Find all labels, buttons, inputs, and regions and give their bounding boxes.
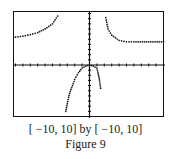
- graph-point: [57, 15, 59, 17]
- graph-point: [154, 41, 156, 43]
- graph-point: [41, 30, 43, 32]
- graph-point: [89, 64, 91, 66]
- graph-point: [96, 67, 98, 69]
- graph-point: [121, 40, 123, 42]
- graph-point: [71, 87, 73, 89]
- graph-point: [87, 65, 89, 67]
- graph-point: [27, 34, 29, 36]
- graph-point: [163, 41, 165, 43]
- graph-point: [79, 70, 81, 72]
- graph-point: [15, 36, 17, 38]
- graph-point: [118, 39, 120, 41]
- graph-point: [56, 17, 58, 19]
- graph-point: [66, 107, 68, 109]
- graph-point: [72, 85, 74, 87]
- graph-point: [66, 105, 68, 107]
- graph-point: [34, 32, 36, 34]
- graph-point: [100, 87, 102, 89]
- graph-point: [98, 75, 100, 77]
- graph-point: [67, 101, 69, 103]
- graph-point: [115, 37, 117, 39]
- graph-point: [107, 28, 109, 30]
- graph-point: [94, 66, 96, 68]
- graph-point: [50, 24, 52, 26]
- graph-point: [65, 109, 67, 111]
- graph-point: [53, 21, 55, 23]
- graph-point: [75, 76, 77, 78]
- figure-label: Figure 9: [0, 137, 171, 151]
- graph-point: [20, 36, 22, 38]
- graph-point: [54, 19, 56, 21]
- graph-point: [91, 65, 93, 67]
- graph-point: [22, 35, 24, 37]
- graph-point: [66, 103, 68, 105]
- graph-point: [25, 35, 27, 37]
- graph-point: [81, 67, 83, 69]
- graph-point: [144, 41, 146, 43]
- graph-point: [42, 29, 44, 31]
- graph-point: [68, 95, 70, 97]
- graph-point: [72, 83, 74, 85]
- graph-point: [98, 77, 100, 79]
- graph-point: [83, 66, 85, 68]
- graph-point: [128, 41, 130, 43]
- graph-point: [37, 32, 39, 34]
- graph-point: [99, 79, 101, 81]
- graph-point: [99, 81, 101, 83]
- graph-point: [113, 36, 115, 38]
- graph-point: [106, 24, 108, 26]
- graph-point: [85, 65, 87, 67]
- graph-point: [44, 28, 46, 30]
- graph-point: [148, 41, 150, 43]
- graph-point: [106, 21, 108, 23]
- graph-point: [39, 31, 41, 33]
- graph-point: [65, 111, 67, 113]
- graph-point: [146, 41, 148, 43]
- graph-point: [68, 97, 70, 99]
- graph-point: [73, 81, 75, 83]
- graph-point: [69, 91, 71, 93]
- graph-point: [99, 83, 101, 85]
- graph-point: [108, 30, 110, 32]
- graph-point: [133, 41, 135, 43]
- graph-point: [76, 74, 78, 76]
- graph-point: [126, 41, 128, 43]
- graph-point: [46, 27, 48, 29]
- graph-point: [97, 73, 99, 75]
- graph-point: [105, 19, 107, 21]
- graph-point: [80, 69, 82, 71]
- graph-point: [67, 99, 69, 101]
- calculator-graph-screen: [13, 11, 164, 117]
- graph-point: [116, 38, 118, 40]
- graph-point: [69, 92, 71, 94]
- graph-point: [52, 23, 54, 25]
- graph-plot: [14, 12, 165, 118]
- graph-point: [142, 41, 144, 43]
- graph-point: [96, 69, 98, 71]
- graph-point: [99, 85, 101, 87]
- graph-point: [107, 26, 109, 28]
- graph-point: [48, 26, 50, 28]
- graph-point: [32, 33, 34, 35]
- graph-point: [29, 34, 31, 36]
- graph-point: [137, 41, 139, 43]
- graph-point: [97, 71, 99, 73]
- graph-point: [123, 40, 125, 42]
- graph-point: [131, 41, 133, 43]
- window-caption: [ −10, 10] by [ −10, 10]: [0, 122, 171, 136]
- graph-point: [74, 79, 76, 81]
- graph-point: [111, 34, 113, 36]
- graph-point: [105, 17, 107, 19]
- graph-point: [78, 72, 80, 74]
- graph-point: [92, 65, 94, 67]
- graph-point: [70, 89, 72, 91]
- graph-point: [139, 41, 141, 43]
- graph-point: [161, 41, 163, 43]
- graph-point: [152, 41, 154, 43]
- graph-point: [17, 36, 19, 38]
- graph-point: [158, 41, 160, 43]
- graph-point: [135, 41, 137, 43]
- graph-point: [156, 41, 158, 43]
- graph-point: [110, 32, 112, 34]
- graph-point: [150, 41, 152, 43]
